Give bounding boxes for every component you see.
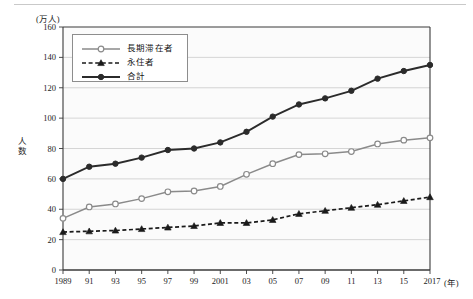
legend-swatch-1 [81, 41, 121, 53]
datapoint-1-2013 [375, 141, 381, 147]
legend-sample-marker-1 [98, 46, 104, 52]
datapoint-1-2009 [322, 151, 328, 157]
legend-swatch-2 [81, 55, 121, 67]
plot-area [0, 0, 473, 299]
datapoint-1-1995-shape [139, 196, 145, 202]
datapoint-3-2013 [375, 76, 380, 81]
chart-figure: (万人) 人数 020406080100120140160 1989919395… [0, 0, 473, 299]
datapoint-1-1991 [86, 204, 92, 210]
datapoint-1-2013-shape [375, 141, 381, 147]
datapoint-1-2017-shape [427, 135, 433, 141]
datapoint-1-2009-shape [322, 151, 328, 157]
datapoint-1-1993-shape [113, 201, 119, 207]
datapoint-3-1995 [139, 155, 144, 160]
datapoint-1-2015-shape [401, 137, 407, 143]
datapoint-1-2017 [427, 135, 433, 141]
datapoint-1-1997-shape [165, 189, 171, 195]
datapoint-1-2015 [401, 137, 407, 143]
datapoint-3-2007 [296, 102, 301, 107]
datapoint-1-1999-shape [191, 188, 197, 194]
legend-label-2: 永住者 [127, 55, 155, 67]
datapoint-1-1991-shape [86, 204, 92, 210]
datapoint-3-2003 [244, 129, 249, 134]
datapoint-1-1993 [113, 201, 119, 207]
datapoint-1-2003-shape [244, 172, 250, 178]
legend-sample-marker-3 [98, 74, 103, 79]
datapoint-1-2005-shape [270, 161, 276, 167]
legend-label-1: 長期滞在者 [127, 41, 173, 53]
datapoint-1-2011 [349, 149, 355, 155]
datapoint-1-2005 [270, 161, 276, 167]
legend-item-1[interactable]: 長期滞在者 [81, 41, 173, 53]
datapoint-3-1999 [191, 146, 196, 151]
datapoint-1-2001-shape [217, 184, 223, 190]
datapoint-3-2015 [401, 68, 406, 73]
legend-line-icon [81, 43, 121, 55]
datapoint-1-1997 [165, 189, 171, 195]
datapoint-1-2007 [296, 152, 302, 158]
datapoint-1-2007-shape [296, 152, 302, 158]
legend-label-3: 合計 [127, 69, 145, 81]
chart-legend: 長期滞在者永住者合計 [72, 34, 188, 82]
datapoint-1-2003 [244, 172, 250, 178]
datapoint-1-1999 [191, 188, 197, 194]
legend-swatch-3 [81, 69, 121, 81]
datapoint-1-2001 [217, 184, 223, 190]
legend-item-2[interactable]: 永住者 [81, 55, 155, 67]
datapoint-3-2005 [270, 114, 275, 119]
legend-line-icon [81, 71, 121, 83]
legend-item-3[interactable]: 合計 [81, 69, 145, 81]
datapoint-3-2009 [322, 96, 327, 101]
datapoint-1-1995 [139, 196, 145, 202]
datapoint-1-2011-shape [349, 149, 355, 155]
datapoint-3-1993 [113, 161, 118, 166]
legend-line-icon [81, 57, 121, 69]
datapoint-3-2001 [218, 140, 223, 145]
datapoint-1-1989-shape [60, 216, 66, 222]
legend-sample-marker-1-shape [98, 46, 104, 52]
datapoint-3-2017 [427, 62, 432, 67]
datapoint-1-1989 [60, 216, 66, 222]
datapoint-3-2011 [349, 88, 354, 93]
datapoint-3-1991 [87, 164, 92, 169]
datapoint-3-1989 [60, 176, 65, 181]
datapoint-3-1997 [165, 147, 170, 152]
